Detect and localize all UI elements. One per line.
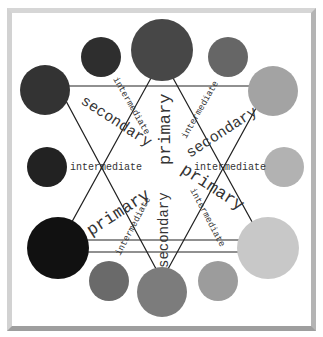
color-wheel-diagram: primary secondary secondary secondary pr… [0, 0, 323, 337]
circle-bottom-secondary [137, 267, 187, 317]
circle-bottom-left-primary [27, 217, 89, 279]
circle-right-intermediate [264, 147, 304, 187]
label-secondary-bottom: secondary [156, 192, 172, 268]
circle-top-left-intermediate [81, 37, 121, 77]
label-intermediate-right: intermediate [194, 162, 266, 173]
circle-top-right-intermediate [208, 37, 248, 77]
circle-left-intermediate [27, 147, 67, 187]
label-primary-top: primary [156, 94, 175, 165]
circle-bottom-left-intermediate [89, 261, 129, 301]
label-intermediate-left: intermediate [70, 162, 142, 173]
circle-right-secondary [248, 66, 298, 116]
circle-bottom-right-intermediate [198, 261, 238, 301]
circle-left-secondary [20, 65, 70, 115]
circle-bottom-right-primary [237, 217, 299, 279]
labels: primary secondary secondary secondary pr… [70, 76, 266, 269]
circle-top-primary [131, 19, 193, 81]
